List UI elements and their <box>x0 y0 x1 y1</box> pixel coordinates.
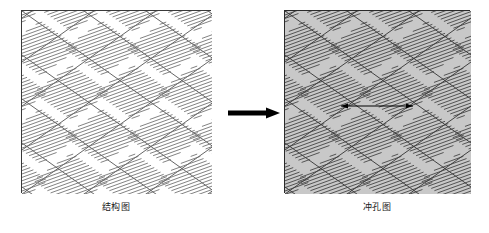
structure-panel-caption: 结构图 <box>21 201 211 213</box>
punching-panel-graphic <box>285 11 471 194</box>
structure-panel-box <box>21 10 211 193</box>
structure-panel-graphic <box>22 11 212 194</box>
process-arrow-icon <box>228 103 280 123</box>
punching-panel-caption: 冲孔图 <box>284 201 470 213</box>
punching-panel: 冲孔图 <box>284 10 470 215</box>
figure-root: 结构图 冲孔图 <box>0 0 489 233</box>
process-arrow <box>228 103 280 123</box>
structure-panel: 结构图 <box>21 10 211 215</box>
punching-panel-box <box>284 10 470 193</box>
